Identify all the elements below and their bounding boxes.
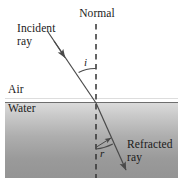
refraction-diagram: Incident ray Normal Air Water i r Refrac… xyxy=(0,0,184,187)
air-medium-label: Air xyxy=(8,83,24,96)
incident-ray-direction-arrow xyxy=(54,41,65,58)
normal-label: Normal xyxy=(66,7,128,20)
refracted-ray-label: Refracted ray xyxy=(127,138,173,164)
angle-of-incidence-label: i xyxy=(84,56,87,68)
angle-of-refraction-label: r xyxy=(100,147,104,159)
incident-ray-label: Incident ray xyxy=(17,22,55,48)
angle-of-incidence-arc xyxy=(79,68,96,72)
water-medium-label: Water xyxy=(8,102,36,115)
